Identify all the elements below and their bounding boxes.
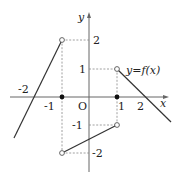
open-point-1-neg1: [115, 123, 120, 128]
open-point-1-1: [115, 67, 120, 72]
filled-point-1-0: [115, 95, 120, 100]
y-tick-2: 2: [93, 34, 100, 47]
x-axis-label: x: [160, 97, 167, 110]
y-tick-neg1: -1: [72, 119, 83, 132]
filled-point-neg1-0: [60, 95, 65, 100]
open-point-neg1-2: [60, 38, 65, 43]
y-axis-arrow-icon: [87, 12, 91, 18]
function-label: y=f(x): [125, 64, 160, 77]
function-graph: y x O -2 -1 1 2 2 1 -1 -2 y=f(x): [0, 0, 179, 183]
x-tick-2: 2: [137, 100, 144, 113]
origin-label: O: [78, 100, 87, 113]
y-axis-label: y: [77, 11, 85, 24]
open-point-neg1-neg2: [60, 151, 65, 156]
y-tick-neg2: -2: [92, 147, 103, 160]
x-tick-1: 1: [118, 100, 125, 113]
x-tick-neg1: -1: [44, 100, 55, 113]
x-tick-neg2: -2: [18, 83, 29, 96]
y-tick-1: 1: [79, 63, 86, 76]
